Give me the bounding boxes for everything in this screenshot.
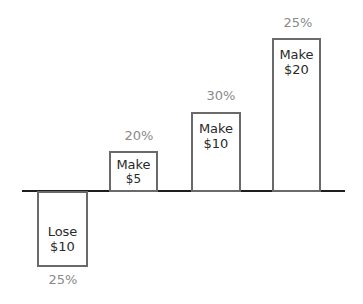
bar-label-line1: Make [274,47,319,62]
bar-make-5: Make $5 [109,151,158,192]
bar-label-line1: Make [193,121,239,136]
bar-make-10: Make $10 [191,112,241,192]
bar-label-line1: Make [111,157,156,172]
bar-label-line1: Lose [39,224,86,239]
outcome-bar-chart: Lose $10 25% Make $5 20% Make $10 30% Ma… [0,0,363,304]
probability-label: 30% [191,88,251,103]
bar-label-line2: $5 [111,172,156,187]
probability-label: 25% [33,272,93,287]
bar-label-line2: $10 [39,239,86,254]
bar-label-line2: $20 [274,62,319,77]
probability-label: 20% [109,128,169,143]
bar-make-20: Make $20 [272,38,321,192]
bar-lose-10: Lose $10 [37,191,88,267]
bar-label-line2: $10 [193,136,239,151]
probability-label: 25% [268,15,328,30]
